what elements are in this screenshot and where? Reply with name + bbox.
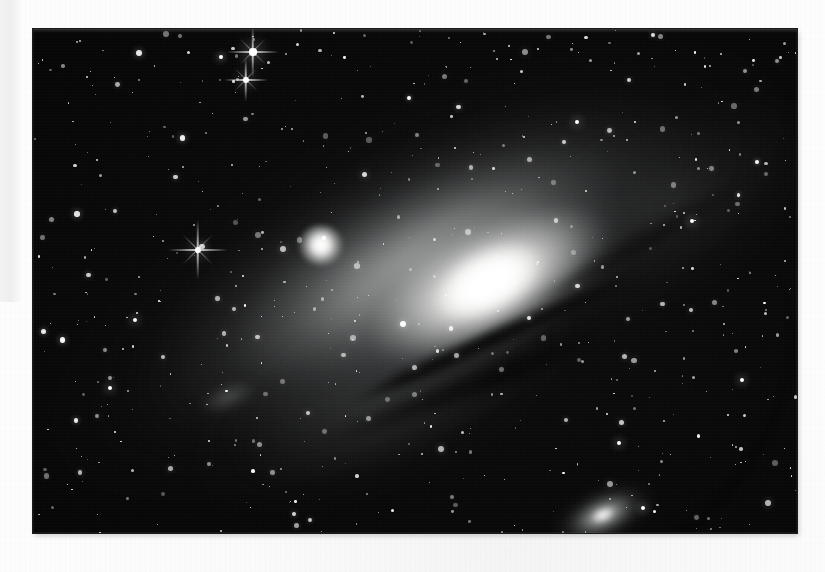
bright-star xyxy=(322,236,326,240)
bright-star xyxy=(690,219,695,224)
scanned-page xyxy=(0,0,825,572)
bright-star xyxy=(641,506,645,510)
bright-star xyxy=(575,120,580,125)
bright-star xyxy=(740,378,744,382)
bright-star xyxy=(108,386,112,390)
bright-star-layer xyxy=(33,29,797,533)
astronomy-photograph[interactable] xyxy=(33,29,797,533)
bright-star xyxy=(617,441,621,445)
scan-left-band-inner xyxy=(0,0,10,302)
bright-star xyxy=(219,55,223,59)
bright-star xyxy=(133,318,138,323)
